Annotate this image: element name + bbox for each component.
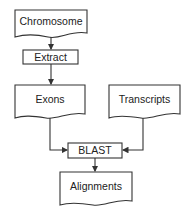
transcripts-label: Transcripts bbox=[109, 93, 180, 105]
chromosome-label: Chromosome bbox=[15, 15, 87, 27]
blast-label: BLAST bbox=[68, 144, 122, 156]
alignments-label: Alignments bbox=[60, 180, 132, 192]
extract-label: Extract bbox=[23, 51, 78, 63]
edge-exons-blast bbox=[50, 118, 67, 150]
edge-transcripts-blast bbox=[123, 118, 143, 150]
exons-label: Exons bbox=[15, 93, 85, 105]
